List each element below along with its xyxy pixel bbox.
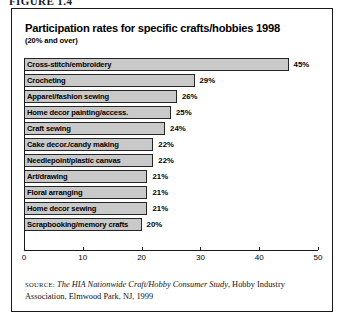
source-title: The HIA Nationwide Craft/Hobby Consumer … xyxy=(57,280,228,289)
bar-category-label: Cake decor./candy making xyxy=(27,138,119,151)
y-axis-line xyxy=(24,58,25,251)
x-axis-tick xyxy=(24,247,25,250)
bar-category-label: Scrapbooking/memory crafts xyxy=(27,218,128,231)
bar-row: Scrapbooking/memory crafts20% xyxy=(24,218,320,231)
bar-value-label: 20% xyxy=(147,218,163,231)
bar-value-label: 22% xyxy=(158,138,174,151)
x-axis-tick-label: 40 xyxy=(255,253,264,262)
bar-row: Cross-stitch/embroidery45% xyxy=(24,58,320,71)
bar-row: Art/drawing21% xyxy=(24,170,320,183)
source-note: SOURCE: The HIA Nationwide Craft/Hobby C… xyxy=(25,279,317,302)
bar-row: Apparel/fashion sewing26% xyxy=(24,90,320,103)
bar-row: Home decor sewing21% xyxy=(24,202,320,215)
bar-value-label: 21% xyxy=(152,170,168,183)
x-axis-tick xyxy=(259,247,260,250)
figure-frame: Participation rates for specific crafts/… xyxy=(11,8,333,312)
bar-category-label: Craft sewing xyxy=(27,122,71,135)
x-axis-tick-label: 20 xyxy=(137,253,146,262)
bar-row: Floral arranging21% xyxy=(24,186,320,199)
bar-row: Crocheting29% xyxy=(24,74,320,87)
bar-category-label: Crocheting xyxy=(27,74,66,87)
bar-value-label: 24% xyxy=(170,122,186,135)
bar-value-label: 22% xyxy=(158,154,174,167)
bar-category-label: Needlepoint/plastic canvas xyxy=(27,154,121,167)
x-axis-line xyxy=(24,250,318,251)
figure-caption: FIGURE 1.4 xyxy=(9,0,72,7)
x-axis-tick xyxy=(318,247,319,250)
x-axis-tick-label: 10 xyxy=(78,253,87,262)
bar-row: Home decor painting/access.25% xyxy=(24,106,320,119)
bar-row: Cake decor./candy making22% xyxy=(24,138,320,151)
x-axis-tick-label: 30 xyxy=(196,253,205,262)
bar-value-label: 21% xyxy=(152,186,168,199)
chart-subtitle: (20% and over) xyxy=(25,36,78,45)
bar-chart-plot-area: Cross-stitch/embroidery45%Crocheting29%A… xyxy=(24,58,320,250)
chart-title: Participation rates for specific crafts/… xyxy=(25,22,280,34)
bar-category-label: Home decor sewing xyxy=(27,202,96,215)
x-axis-tick-label: 50 xyxy=(314,253,323,262)
x-axis-tick-label: 0 xyxy=(22,253,26,262)
bar-value-label: 21% xyxy=(152,202,168,215)
bar-category-label: Home decor painting/access. xyxy=(27,106,128,119)
bar-category-label: Floral arranging xyxy=(27,186,82,199)
bar-value-label: 26% xyxy=(182,90,198,103)
x-axis: 01020304050 xyxy=(24,250,320,272)
bar-value-label: 45% xyxy=(294,58,310,71)
bar-row: Craft sewing24% xyxy=(24,122,320,135)
bar-category-label: Cross-stitch/embroidery xyxy=(27,58,111,71)
bar-category-label: Apparel/fashion sewing xyxy=(27,90,109,103)
bar-category-label: Art/drawing xyxy=(27,170,68,183)
source-label: SOURCE: xyxy=(25,281,55,288)
bar-value-label: 29% xyxy=(200,74,216,87)
x-axis-tick xyxy=(200,247,201,250)
bar-value-label: 25% xyxy=(176,106,192,119)
x-axis-tick xyxy=(142,247,143,250)
bar-row: Needlepoint/plastic canvas22% xyxy=(24,154,320,167)
x-axis-tick xyxy=(83,247,84,250)
